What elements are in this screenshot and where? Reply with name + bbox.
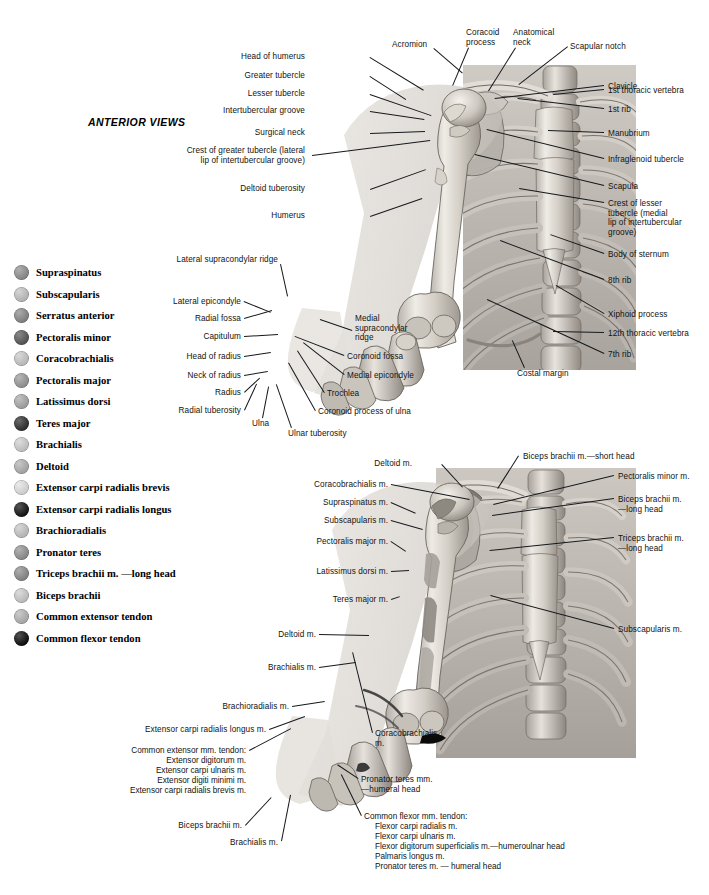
anatomy-label: Head of radius [187,352,241,362]
anatomy-label: Brachialis m. [230,838,278,848]
anatomy-label: Lateral supracondylar ridge [177,255,278,265]
legend-item: Extensor carpi radialis longus [14,499,244,521]
legend-color-swatch [14,459,29,474]
anatomy-label: 8th rib [608,276,631,286]
anatomy-label-sub-item: Flexor carpi ulnaris m. [364,832,565,842]
anatomy-label: Biceps brachii m.—short head [523,452,635,462]
legend-color-swatch [14,566,29,581]
legend-color-swatch [14,437,29,452]
legend-color-swatch [14,351,29,366]
legend-item: Brachialis [14,434,244,456]
anatomy-label: Pectoralis minor m. [618,472,690,482]
legend-color-swatch [14,631,29,646]
anatomy-label-sub-item: Extensor digitorum m. [130,756,246,766]
anatomy-label-sub-item: Pronator teres m. — humeral head [364,862,565,872]
anatomy-label: Biceps brachii m. [178,821,242,831]
legend-color-swatch [14,523,29,538]
anatomy-label-sub-item: Flexor digitorum superficialis m.—humero… [364,842,565,852]
anatomy-label: Intertubercular groove [223,106,305,116]
anatomy-label: Lesser tubercle [248,89,305,99]
anatomy-plate: ANTERIOR VIEWS SupraspinatusSubscapulari… [0,0,709,895]
anatomy-label: Head of humerus [241,52,305,62]
figure-top-illustration [236,40,636,440]
anatomy-label: Medial epicondyle [347,371,414,381]
anatomy-label: Crest of lesser tubercle (medial lip of … [608,199,682,237]
legend-item: Pronator teres [14,542,244,564]
legend-item: Extensor carpi radialis brevis [14,477,244,499]
anatomy-label: Lateral epicondyle [173,297,241,307]
legend-item: Common extensor tendon [14,606,244,628]
anatomy-label: Trochlea [327,389,359,399]
legend-color-swatch [14,308,29,323]
anatomy-label: Radius [215,388,241,398]
anatomy-label: Neck of radius [188,371,241,381]
anatomy-label: Pectoralis major m. [316,537,388,547]
legend-item: Teres major [14,413,244,435]
legend-color-swatch [14,588,29,603]
legend-item: Common flexor tendon [14,628,244,650]
legend-item-label: Brachialis [36,439,82,450]
anatomy-label: Infraglenoid tubercle [608,155,684,165]
anatomy-label: Medial supracondylar ridge [355,314,408,343]
anatomy-label: Scapular notch [570,42,626,52]
anatomy-label: Subscapularis m. [324,516,388,526]
legend-color-swatch [14,545,29,560]
anatomy-label: Teres major m. [333,595,388,605]
legend-color-swatch [14,373,29,388]
anatomy-label: Crest of greater tubercle (lateral lip o… [187,146,305,165]
anatomy-label: Supraspinatus m. [323,498,388,508]
legend-item-label: Coracobrachialis [36,353,114,364]
anatomy-label: Pronator teres mm. —humeral head [361,775,433,794]
legend-color-swatch [14,265,29,280]
legend-color-swatch [14,287,29,302]
anatomy-label-heading: Common flexor mm. tendon: [364,812,565,822]
anatomy-label: Acromion [392,40,427,50]
anatomy-label: Radial fossa [195,314,241,324]
anatomy-label: 7th rib [608,350,631,360]
page-title: ANTERIOR VIEWS [88,116,185,128]
anatomy-label-sub-item: Extensor carpi radialis brevis m. [130,786,246,796]
anatomy-label-group: Common flexor mm. tendon:Flexor carpi ra… [364,812,565,871]
anatomy-label-sub-item: Palmaris longus m. [364,852,565,862]
anatomy-label: Deltoid m. [374,459,412,469]
anatomy-label: Biceps brachii m. —long head [618,495,682,514]
legend-item: Triceps brachii m. —long head [14,563,244,585]
legend-item-label: Latissimus dorsi [36,396,110,407]
legend-item-label: Teres major [36,418,90,429]
legend-color-swatch [14,502,29,517]
anatomy-label: Extensor carpi radialis longus m. [145,725,266,735]
anatomy-label: Coracoid process [466,28,499,47]
legend-item-label: Deltoid [36,461,69,472]
legend-item: Biceps brachii [14,585,244,607]
legend-color-swatch [14,480,29,495]
anatomy-label-group: Common extensor mm. tendon:Extensor digi… [130,746,246,796]
legend-item: Brachioradialis [14,520,244,542]
legend-color-swatch [14,394,29,409]
legend-item-label: Common extensor tendon [36,611,152,622]
anatomy-label: 1st thoracic vertebra [608,86,684,96]
anatomy-label: Body of sternum [608,250,669,260]
anatomy-label: Xiphoid process [608,310,668,320]
legend-color-swatch [14,330,29,345]
anatomy-label: Latissimus dorsi m. [316,567,388,577]
legend-color-swatch [14,609,29,624]
legend-item-label: Supraspinatus [36,267,101,278]
legend-item: Supraspinatus [14,262,244,284]
anatomy-label: Deltoid m. [278,630,316,640]
legend-item-label: Brachioradialis [36,525,106,536]
anatomy-label: Radial tuberosity [179,406,241,416]
legend-item-label: Pectoralis major [36,375,111,386]
anatomy-label: Ulnar tuberosity [288,429,347,439]
legend-item-label: Extensor carpi radialis brevis [36,482,170,493]
anatomy-label: Scapula [608,182,638,192]
anatomy-label: Brachioradialis m. [222,702,289,712]
anatomy-label: Triceps brachii m. —long head [618,534,684,553]
anatomy-label: Brachialis m. [268,663,316,673]
legend-item-label: Extensor carpi radialis longus [36,504,171,515]
legend-item-label: Triceps brachii m. —long head [36,568,176,579]
anatomy-label: Humerus [271,211,305,221]
anatomy-label: Costal margin [517,369,569,379]
legend-color-swatch [14,416,29,431]
anatomy-label-sub-item: Extensor digiti minimi m. [130,776,246,786]
legend-item-label: Biceps brachii [36,590,100,601]
